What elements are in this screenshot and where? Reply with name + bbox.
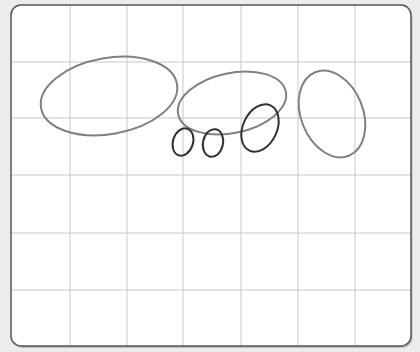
drawing-canvas[interactable]	[0, 0, 420, 352]
